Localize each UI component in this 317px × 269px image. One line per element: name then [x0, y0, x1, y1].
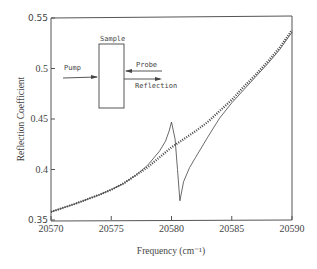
- x-axis-title: Frequency (cm⁻¹): [137, 246, 205, 257]
- reflection-label: Reflection: [135, 82, 177, 90]
- probe-arrowhead: [125, 69, 132, 73]
- x-axis-ticks: 2057020575205802058520590: [39, 216, 305, 234]
- sample-label: Sample: [100, 35, 125, 43]
- axes-box: [51, 16, 292, 221]
- reflection-chart: 0.350.40.450.50.55 205702057520580205852…: [0, 0, 317, 269]
- dotted-series-line: [51, 30, 292, 212]
- x-tick-label: 20580: [159, 223, 184, 234]
- y-tick-label: 0.4: [36, 164, 49, 175]
- y-axis-title: Reflection Coefficient: [16, 76, 26, 161]
- y-tick-label: 0.45: [31, 113, 49, 124]
- data-series: [51, 30, 292, 212]
- reflection-arrowhead: [155, 77, 162, 81]
- y-tick-label: 0.5: [36, 63, 49, 74]
- solid-series-line: [51, 32, 292, 212]
- y-tick-label: 0.55: [28, 13, 48, 23]
- x-tick-label: 20585: [219, 223, 244, 234]
- pump-label: Pump: [64, 64, 81, 72]
- x-tick-label: 20590: [280, 223, 305, 234]
- x-tick-label: 20570: [39, 223, 64, 234]
- sample-box: [99, 44, 124, 108]
- probe-label: Probe: [136, 61, 157, 69]
- pump-arrowhead: [91, 75, 98, 79]
- plot-frame: [51, 16, 292, 221]
- x-tick-label: 20575: [99, 223, 124, 234]
- inset-diagram: [63, 44, 162, 108]
